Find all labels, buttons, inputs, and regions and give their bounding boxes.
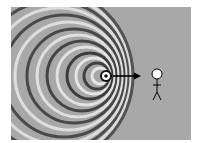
ripple-tank-photo xyxy=(11,7,191,140)
wave-source xyxy=(100,70,112,82)
